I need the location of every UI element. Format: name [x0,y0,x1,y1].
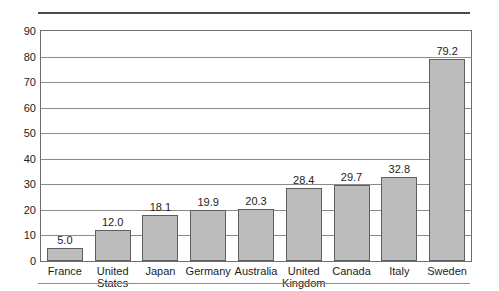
bar-value-label: 20.3 [245,196,266,207]
x-axis-category-label-line: Australia [232,265,280,277]
x-axis-category-label-line: United [280,265,328,277]
x-axis-category-labels: FranceUnitedStatesJapanGermanyAustraliaU… [41,265,471,291]
x-axis-category-label: Canada [328,265,376,277]
x-axis-category-label: Japan [137,265,185,277]
bar-value-label: 29.7 [341,172,362,183]
bar-value-label: 79.2 [436,46,457,57]
bar-value-label: 19.9 [197,197,218,208]
bar-slot: 32.8 [375,31,423,261]
bar-slot: 20.3 [232,31,280,261]
bar-slot: 12.0 [89,31,137,261]
bar-slot: 19.9 [184,31,232,261]
x-axis-category-label: France [41,265,89,277]
y-axis-tick-label: 70 [2,77,36,88]
bar[interactable] [95,230,131,261]
bar[interactable] [47,248,83,261]
bar[interactable] [334,185,370,261]
bar-slot: 29.7 [328,31,376,261]
y-axis-tick-label: 90 [2,26,36,37]
bar[interactable] [142,215,178,261]
y-axis-tick-labels: 0102030405060708090 [0,30,36,262]
bar-slot: 5.0 [41,31,89,261]
x-axis-category-label-line: Sweden [423,265,471,277]
x-axis-category-label-line: Italy [375,265,423,277]
bottom-rule [38,283,470,284]
y-axis-tick-label: 80 [2,52,36,63]
bar[interactable] [429,59,465,261]
bar-value-label: 32.8 [389,164,410,175]
bar[interactable] [381,177,417,261]
bar[interactable] [238,209,274,261]
x-axis-category-label-line: France [41,265,89,277]
bar-slot: 79.2 [423,31,471,261]
y-axis-tick-label: 30 [2,179,36,190]
y-axis-tick-label: 20 [2,205,36,216]
x-axis-category-label-line: Japan [137,265,185,277]
y-axis-tick-label: 0 [2,256,36,267]
x-axis-category-label: UnitedStates [89,265,137,289]
y-axis-tick-label: 60 [2,103,36,114]
x-axis-category-label-line: Germany [184,265,232,277]
bar[interactable] [190,210,226,261]
x-axis-category-label: Sweden [423,265,471,277]
bar[interactable] [286,188,322,261]
x-axis-category-label: Germany [184,265,232,277]
bar-value-label: 12.0 [102,217,123,228]
bar-value-label: 5.0 [57,235,72,246]
x-axis-category-label: Australia [232,265,280,277]
bar-series: 5.012.018.119.920.328.429.732.879.2 [41,31,471,261]
y-axis-tick-label: 40 [2,154,36,165]
bar-slot: 18.1 [137,31,185,261]
bar-slot: 28.4 [280,31,328,261]
bar-value-label: 28.4 [293,175,314,186]
x-axis-category-label: UnitedKingdom [280,265,328,289]
y-axis-tick-label: 50 [2,128,36,139]
chart-figure: 0102030405060708090 5.012.018.119.920.32… [0,0,499,291]
x-axis-category-label-line: Canada [328,265,376,277]
bar-value-label: 18.1 [150,202,171,213]
top-rule [38,12,470,14]
y-axis-tick-label: 10 [2,230,36,241]
x-axis-category-label-line: United [89,265,137,277]
x-axis-category-label: Italy [375,265,423,277]
